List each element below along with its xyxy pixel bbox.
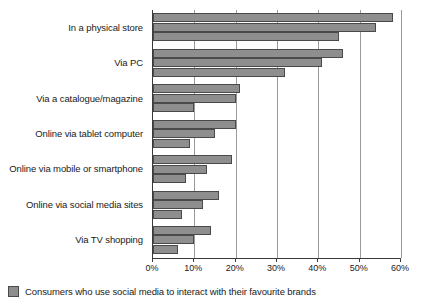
bar <box>153 68 285 77</box>
bar <box>153 129 215 138</box>
x-axis-tick <box>152 258 153 262</box>
bar <box>153 23 376 32</box>
bar <box>153 235 194 244</box>
bar <box>153 84 240 93</box>
x-axis-tick-labels: 0%10%20%30%40%50%60% <box>0 263 423 277</box>
bar <box>153 226 211 235</box>
category-label-text: Online via tablet computer <box>35 129 143 139</box>
category-axis-labels: In a physical storeVia PCVia a catalogue… <box>0 10 148 258</box>
x-axis-ticks <box>152 258 400 262</box>
bar <box>153 49 343 58</box>
bar-group <box>153 81 401 116</box>
bar <box>153 245 178 254</box>
x-axis-tick <box>317 258 318 262</box>
bar-group <box>153 10 401 45</box>
x-axis-tick-label: 50% <box>350 263 368 273</box>
x-axis-tick-label: 0% <box>145 263 158 273</box>
category-label: Online via social media sites <box>0 187 148 222</box>
bar <box>153 32 339 41</box>
bar <box>153 13 393 22</box>
bar <box>153 103 194 112</box>
bar-group <box>153 152 401 187</box>
bar-group <box>153 187 401 222</box>
legend: Consumers who use social media to intera… <box>8 286 316 297</box>
x-axis-tick <box>276 258 277 262</box>
bar <box>153 94 236 103</box>
category-label-text: Online via mobile or smartphone <box>9 164 143 174</box>
bar <box>153 200 203 209</box>
category-label-text: Online via social media sites <box>26 200 143 210</box>
bar <box>153 174 186 183</box>
category-label-text: Via a catalogue/magazine <box>36 94 143 104</box>
category-label: Via TV shopping <box>0 223 148 258</box>
bar <box>153 120 236 129</box>
category-label: Via PC <box>0 45 148 80</box>
category-label-text: Via PC <box>114 58 143 68</box>
x-axis-tick <box>235 258 236 262</box>
x-axis-tick-label: 40% <box>308 263 326 273</box>
legend-label: Consumers who use social media to intera… <box>25 286 316 297</box>
gridline <box>401 10 402 258</box>
category-label-text: Via TV shopping <box>75 235 143 245</box>
x-axis-tick <box>193 258 194 262</box>
bar-group <box>153 223 401 258</box>
bar <box>153 165 207 174</box>
x-axis-tick <box>359 258 360 262</box>
plot-wrapper: In a physical storeVia PCVia a catalogue… <box>0 0 423 278</box>
bar-chart: In a physical storeVia PCVia a catalogue… <box>0 0 423 307</box>
x-axis-tick-label: 30% <box>267 263 285 273</box>
x-axis-tick <box>400 258 401 262</box>
category-label: Online via mobile or smartphone <box>0 152 148 187</box>
x-axis-tick-label: 10% <box>184 263 202 273</box>
x-axis-tick-label: 60% <box>391 263 409 273</box>
category-label-text: In a physical store <box>68 23 143 33</box>
category-label: Via a catalogue/magazine <box>0 81 148 116</box>
legend-swatch-icon <box>8 286 19 297</box>
x-axis-tick-label: 20% <box>226 263 244 273</box>
bar-group <box>153 116 401 151</box>
bar <box>153 58 322 67</box>
bar <box>153 155 232 164</box>
bar-groups <box>153 10 401 258</box>
bar-group <box>153 45 401 80</box>
bar <box>153 210 182 219</box>
bar <box>153 139 190 148</box>
bar <box>153 191 219 200</box>
category-label: Online via tablet computer <box>0 116 148 151</box>
category-label: In a physical store <box>0 10 148 45</box>
plot-area <box>152 10 401 258</box>
